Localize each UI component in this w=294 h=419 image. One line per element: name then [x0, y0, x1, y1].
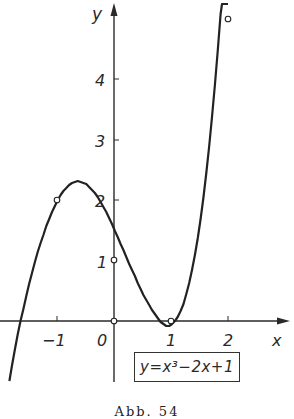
figure-caption: Abb. 54	[0, 404, 294, 419]
formula-text: y=x³−2x+1	[140, 358, 234, 376]
x-tick-label-neg1: −1	[42, 331, 66, 350]
point-0-1	[111, 257, 117, 263]
y-ticks	[114, 79, 119, 200]
y-tick-label-3: 3	[95, 132, 105, 151]
point-1-0	[168, 318, 174, 324]
x-axis-arrow-icon	[277, 318, 290, 325]
y-axis-arrow-icon	[111, 3, 118, 16]
y-tick-label-4: 4	[95, 71, 105, 90]
x-tick-label-1: 1	[166, 331, 176, 350]
point-origin	[111, 318, 117, 324]
y-tick-label-1: 1	[97, 253, 107, 272]
x-tick-label-2: 2	[223, 331, 233, 350]
y-axis-label: y	[91, 4, 103, 24]
marked-points	[54, 16, 231, 324]
x-axis-label: x	[271, 331, 282, 350]
cubic-curve	[9, 4, 228, 381]
x-ticks	[57, 316, 228, 321]
x-tick-label-0: 0	[97, 331, 107, 350]
formula-label: y=x³−2x+1	[134, 352, 240, 382]
y-tick-label-2: 2	[95, 192, 105, 211]
point-neg1-2	[54, 197, 60, 203]
point-2-5	[225, 16, 231, 22]
